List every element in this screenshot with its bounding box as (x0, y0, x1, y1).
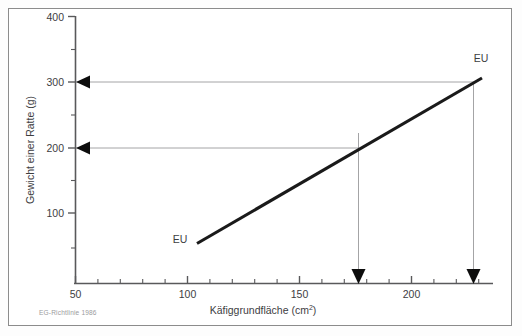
figure-footnote: EG-Richtlinie 1986 (39, 309, 97, 316)
series-eu-line (197, 78, 482, 244)
x-axis-tick-labels: 50 100 150 200 (70, 288, 421, 300)
x-tick-label: 200 (403, 288, 421, 300)
guide-200g-left-arrowhead (76, 142, 90, 155)
x-axis-title-base: Käfiggrundfläche (cm (210, 304, 309, 316)
x-tick-label: 50 (70, 288, 82, 300)
guide-200g (76, 133, 366, 284)
x-axis-title: Käfiggrundfläche (cm2) (210, 304, 317, 316)
x-tick-label: 100 (179, 288, 197, 300)
series-labels: EU EU (173, 52, 489, 245)
chart-plot-area: 400 300 200 100 Gewicht einer Ratte (g) (0, 0, 522, 336)
series-label-lower: EU (173, 233, 188, 245)
x-axis-title-text: Käfiggrundfläche (cm2) (210, 304, 317, 316)
guide-200g-down-arrowhead (352, 269, 366, 284)
x-tick-label: 150 (291, 288, 309, 300)
y-tick-label: 300 (46, 76, 64, 88)
y-tick-label: 100 (46, 207, 64, 219)
x-axis-ticks (76, 276, 479, 283)
y-tick-label: 400 (46, 11, 64, 23)
y-tick-label: 200 (46, 142, 64, 154)
guide-300g (76, 76, 481, 285)
y-axis-title: Gewicht einer Ratte (g) (24, 96, 36, 204)
y-axis-ticks (68, 17, 75, 249)
series-label-upper: EU (474, 52, 489, 64)
guide-300g-left-arrowhead (76, 76, 90, 89)
x-axis-title-tail: ) (313, 304, 317, 316)
y-axis-title-text: Gewicht einer Ratte (g) (24, 96, 36, 204)
y-axis-tick-labels: 400 300 200 100 (46, 11, 64, 220)
chart-canvas: 400 300 200 100 Gewicht einer Ratte (g) (0, 0, 522, 336)
